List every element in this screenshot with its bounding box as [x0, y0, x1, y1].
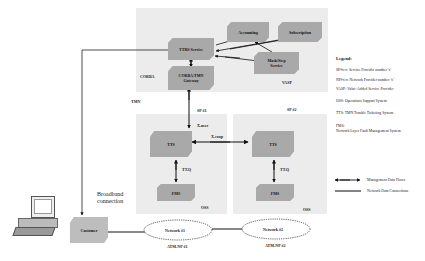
network2-label: Network #2 — [263, 227, 283, 232]
corba-label: CORBA — [140, 74, 154, 79]
tts1-node: TTS — [150, 131, 192, 157]
fms1-node: FMS — [157, 184, 195, 201]
accounting-node: Accounting — [227, 22, 269, 42]
customer-node: Customer — [70, 217, 108, 243]
ttrs-service-label: TTRS Service — [168, 47, 214, 52]
computer-icon — [14, 196, 60, 240]
broadband-line1: Broadband — [97, 191, 123, 198]
customer-label: Customer — [70, 228, 108, 233]
vasp-label: VASP — [282, 80, 292, 85]
tts1-label: TTS — [150, 142, 192, 147]
oss1-label: OSS — [201, 205, 209, 210]
x-user-label: X.user — [197, 123, 208, 128]
legend-item-tts: TTS: TMN Trouble Ticketing System — [336, 111, 393, 115]
legend-item-vasp: VASP: Value-Added Service Provider — [336, 87, 394, 91]
mask-step-label: Mask/Step Service — [254, 58, 299, 68]
legend-title: Legend: — [336, 56, 352, 61]
network1-label: Network #1 — [165, 228, 185, 233]
x-coop-label: X.coop — [211, 134, 223, 139]
subscription-node: Subscription — [278, 22, 322, 42]
atm-np1-label: ATM-NP #1 — [167, 244, 187, 249]
oss2-label: OSS — [303, 207, 311, 212]
fms2-node: FMS — [256, 184, 294, 201]
legend-item-fms: FMS: — [336, 124, 345, 128]
tts2-node: TTS — [252, 131, 294, 157]
legend-item-oss: OSS: Operations Support System — [336, 99, 387, 103]
gateway-label-line2: Gateway — [168, 78, 214, 83]
fms2-label: FMS — [256, 190, 294, 195]
broadband-line2: connection — [97, 198, 123, 205]
sp2-label: SP #2 — [287, 107, 296, 112]
sp1-label: SP #1 — [197, 108, 206, 113]
mask-step-label-line2: Service — [254, 63, 299, 68]
fms1-label: FMS — [157, 190, 195, 195]
tts2-label: TTS — [252, 142, 294, 147]
corba-tmn-gateway-node: CORBA/TMN Gateway — [168, 66, 214, 90]
legend-item-np: NP#x:x: Network Provider number 'x' — [336, 78, 394, 82]
tmn-label: TMN — [131, 99, 140, 104]
accounting-label: Accounting — [227, 30, 269, 35]
mask-step-service-node: Mask/Step Service — [254, 52, 299, 74]
atm-np2-label: ATM-NP #2 — [265, 243, 285, 248]
ttrs-service-node: TTRS Service — [168, 38, 214, 60]
legend-item-fms-desc: Network Layer Fault Management System — [336, 129, 401, 133]
subscription-label: Subscription — [278, 30, 322, 35]
gateway-label: CORBA/TMN Gateway — [168, 73, 214, 83]
legend-item-sp: SP#x:x: Service Provider number 'x' — [336, 68, 391, 72]
legend-network-connections: Network Data Connections — [367, 189, 408, 193]
ttq1-label: TT.Q — [182, 167, 191, 172]
legend-management-flows: Management Data Flows — [367, 178, 405, 182]
broadband-connection-label: Broadband connection — [97, 191, 123, 205]
ttq2-label: TT.Q — [280, 167, 289, 172]
